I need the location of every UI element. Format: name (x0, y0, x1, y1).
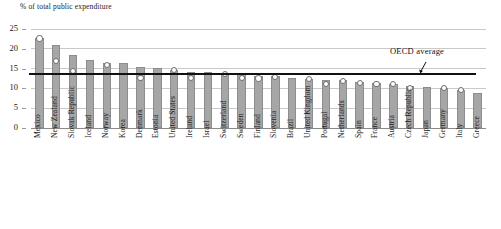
y-tick-mark (22, 88, 26, 89)
data-point-marker (239, 75, 245, 81)
x-axis-label: Austria (387, 115, 396, 138)
x-axis-label: Sweden (236, 113, 245, 138)
x-axis-label: Slovenia (269, 111, 278, 138)
data-point-marker (441, 85, 447, 91)
x-axis-label: Brazil (286, 119, 295, 138)
y-tick-mark (22, 29, 26, 30)
x-axis-category-labels: MexicoNew ZealandSlovak RepublicIcelandN… (31, 129, 486, 229)
x-axis-label: France (370, 117, 379, 138)
x-axis-label: United States (168, 96, 177, 138)
y-tick-mark (22, 69, 26, 70)
x-axis-label: Iceland (84, 115, 93, 138)
x-axis-label: United Kingdom (303, 85, 312, 138)
y-tick-label: 25 (10, 24, 19, 33)
x-axis-label: Italy (455, 124, 464, 138)
oecd-average-line (29, 73, 476, 75)
x-axis-label: Czech Republic (404, 88, 413, 138)
bar (457, 90, 465, 128)
data-point-marker (104, 62, 110, 68)
y-tick-label: 5 (14, 103, 18, 112)
y-tick-mark (22, 108, 26, 109)
x-axis-label: New Zealand (50, 96, 59, 138)
x-axis-label: Germany (438, 109, 447, 138)
y-tick-mark (22, 128, 26, 129)
data-point-marker (255, 75, 261, 81)
y-tick-label: 20 (10, 44, 19, 53)
x-axis-label: Slovak Republic (67, 86, 76, 138)
x-axis-label: Estonia (151, 115, 160, 138)
x-axis-label: Israel (202, 121, 211, 138)
y-tick-mark (22, 49, 26, 50)
x-axis-label: Netherlands (337, 100, 346, 138)
x-axis-label: Finland (253, 114, 262, 138)
x-axis-label: Korea (118, 119, 127, 138)
x-axis-label: Ireland (185, 116, 194, 138)
x-axis-label: Portugal (320, 111, 329, 138)
data-point-marker (36, 35, 42, 41)
x-axis-label: Denmark (135, 109, 144, 138)
chart-container: % of total public expenditure 0510152025… (0, 0, 501, 229)
x-axis-label: Mexico (33, 114, 42, 138)
x-axis-label: Switzerland (219, 101, 228, 138)
data-point-marker (458, 87, 464, 93)
y-tick-label: 15 (10, 64, 19, 73)
oecd-average-arrow-icon (414, 61, 430, 77)
x-axis-label: Norway (101, 113, 110, 138)
y-tick-label: 10 (10, 83, 19, 92)
y-tick-label: 0 (14, 123, 18, 132)
x-axis-label: Japan (421, 120, 430, 138)
data-point-marker (357, 80, 363, 86)
y-axis: 0510152025 (0, 29, 26, 128)
chart-axis-title: % of total public expenditure (20, 2, 112, 11)
data-point-marker (340, 78, 346, 84)
data-point-marker (373, 81, 379, 87)
data-point-marker (137, 75, 143, 81)
x-axis-label: Greece (472, 116, 481, 138)
oecd-average-label: OECD average (390, 46, 444, 56)
data-point-marker (323, 81, 329, 87)
x-axis-label: Spain (354, 120, 363, 138)
gridline (31, 29, 486, 30)
